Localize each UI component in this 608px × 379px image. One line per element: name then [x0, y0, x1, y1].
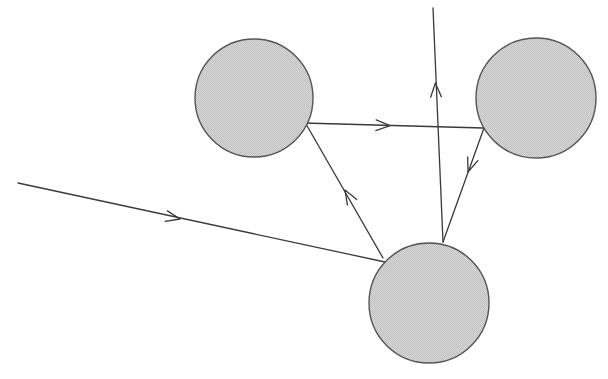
node-bottom: [369, 243, 489, 363]
node-top-left: [195, 39, 313, 157]
node-top-right: [476, 38, 596, 158]
figure-canvas: [0, 0, 608, 379]
diagram-svg: [0, 0, 608, 379]
